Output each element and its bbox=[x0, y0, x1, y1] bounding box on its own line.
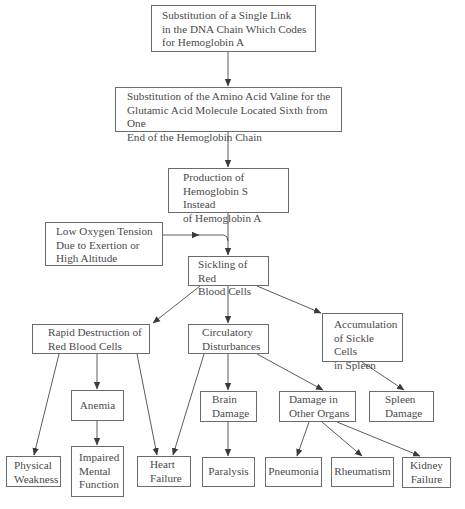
node-sickling: Sickling of Red Blood Cells bbox=[188, 256, 269, 286]
node-low-oxygen-tension: Low Oxygen Tension Due to Exertion or Hi… bbox=[45, 222, 163, 266]
sickle-cell-flowchart: Substitution of a Single Link in the DNA… bbox=[0, 0, 465, 509]
node-rapid-destruction: Rapid Destruction of Red Blood Cells bbox=[32, 324, 150, 354]
arrow-sickling-to-accumulation bbox=[257, 286, 321, 313]
arrow-organs-to-pneumonia bbox=[297, 422, 309, 456]
node-hemoglobin-s-production: Production of Hemoglobin S Instead of He… bbox=[168, 168, 289, 213]
node-brain-damage: Brain Damage bbox=[200, 391, 257, 422]
arrow-circulatory-to-other-organs bbox=[257, 354, 323, 390]
node-paralysis: Paralysis bbox=[202, 457, 255, 487]
arrow-organs-to-rheumatism bbox=[322, 422, 362, 456]
node-dna-substitution: Substitution of a Single Link in the DNA… bbox=[151, 5, 316, 52]
node-heart-failure: Heart Failure bbox=[137, 456, 191, 487]
node-impaired-mental-function: Impaired Mental Function bbox=[71, 446, 124, 497]
arrow-sickling-to-rapid bbox=[153, 286, 200, 323]
node-rheumatism: Rheumatism bbox=[331, 457, 394, 487]
node-spleen-damage: Spleen Damage bbox=[369, 391, 434, 422]
arrow-rapid-to-heart bbox=[137, 354, 157, 455]
arrow-organs-to-kidney bbox=[337, 422, 420, 456]
node-damage-other-organs: Damage in Other Organs bbox=[279, 391, 356, 422]
node-circulatory-disturbances: Circulatory Disturbances bbox=[188, 324, 269, 354]
node-amino-acid-substitution: Substitution of the Amino Acid Valine fo… bbox=[115, 87, 342, 132]
arrow-rapid-to-weakness bbox=[34, 354, 59, 455]
node-anemia: Anemia bbox=[71, 390, 124, 421]
node-accumulation-spleen: Accumulation of Sickle Cells in Spleen bbox=[322, 313, 403, 362]
arrow-low-oxygen-join bbox=[197, 235, 228, 241]
node-kidney-failure: Kidney Failure bbox=[402, 457, 451, 488]
node-pneumonia: Pneumonia bbox=[265, 457, 322, 487]
node-physical-weakness: Physical Weakness bbox=[6, 456, 61, 487]
